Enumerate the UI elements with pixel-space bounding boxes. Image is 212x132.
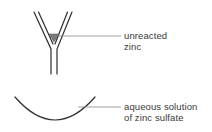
zinc-sulfate-solution-label-line1: aqueous solution xyxy=(124,101,197,112)
unreacted-zinc-label-line1: unreacted xyxy=(124,30,167,41)
funnel-inner-left-wall xyxy=(39,12,54,44)
unreacted-zinc-label: unreacted zinc xyxy=(124,30,167,52)
evaporating-basin xyxy=(15,97,95,120)
filter-funnel xyxy=(34,12,72,74)
unreacted-zinc-label-line2: zinc xyxy=(124,41,167,52)
zinc-sulfate-solution-label: aqueous solution of zinc sulfate xyxy=(124,101,197,123)
zinc-sulfate-solution-label-line2: of zinc sulfate xyxy=(124,112,197,123)
